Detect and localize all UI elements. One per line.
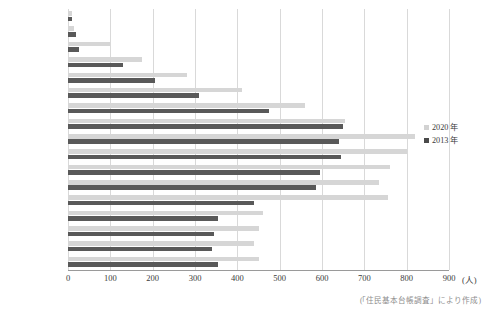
x-tick-label-900: 900 <box>443 273 456 283</box>
bar-2020年-70～74歳 <box>68 42 110 47</box>
bar-2020年-15～19歳 <box>68 211 263 216</box>
chart-row: 45～49 歳 <box>68 116 449 131</box>
chart-row: 50～54 歳 <box>68 101 449 116</box>
bar-2020年-35～39歳 <box>68 149 407 154</box>
bar-2013年-30～34歳 <box>68 170 320 175</box>
bar-2013年-55～59歳 <box>68 93 199 98</box>
x-tick-label-400: 400 <box>231 273 244 283</box>
bar-2020年-5～9歳 <box>68 241 254 246</box>
chart-legend: 2020 年2013 年 <box>424 121 458 147</box>
x-tick-label-300: 300 <box>189 273 202 283</box>
chart-row: 80 歳以上 <box>68 9 449 24</box>
legend-label: 2020 年 <box>432 121 458 134</box>
source-note: (「住民基本台帳調査」により作成) <box>360 294 481 305</box>
bar-2013年-40～44歳 <box>68 139 339 144</box>
chart-row: 60～64 歳 <box>68 70 449 85</box>
chart-row: 5 ～ 9 歳 <box>68 239 449 254</box>
chart-row: 35～39 歳 <box>68 147 449 162</box>
bar-2020年-10～14歳 <box>68 226 259 231</box>
chart-row: 65～69 歳 <box>68 55 449 70</box>
plot-area: 80 歳以上75～79 歳70～74 歳65～69 歳60～64 歳55～59 … <box>68 9 449 270</box>
legend-swatch-icon <box>424 125 429 130</box>
bar-2020年-20～24歳 <box>68 195 388 200</box>
chart-row: 30～34 歳 <box>68 163 449 178</box>
bar-2020年-75～79歳 <box>68 26 74 31</box>
bar-2013年-5～9歳 <box>68 247 212 252</box>
x-tick-label-200: 200 <box>146 273 159 283</box>
bar-2013年-70～74歳 <box>68 47 79 52</box>
bar-2013年-65～69歳 <box>68 63 123 68</box>
x-tick-label-600: 600 <box>316 273 329 283</box>
chart-row: 40～44 歳 <box>68 132 449 147</box>
x-tick-label-500: 500 <box>273 273 286 283</box>
bar-2013年-10～14歳 <box>68 232 214 237</box>
bar-2020年-30～34歳 <box>68 165 390 170</box>
bar-2013年-15～19歳 <box>68 216 218 221</box>
bar-2013年-50～54歳 <box>68 109 269 114</box>
bar-2020年-55～59歳 <box>68 88 242 93</box>
population-pyramid-bar-chart: 80 歳以上75～79 歳70～74 歳65～69 歳60～64 歳55～59 … <box>0 0 489 312</box>
bar-2013年-35～39歳 <box>68 155 341 160</box>
chart-row: 0 ～ 4 歳 <box>68 255 449 270</box>
chart-row: 10～14 歳 <box>68 224 449 239</box>
bar-2020年-25～29歳 <box>68 180 379 185</box>
bar-2013年-25～29歳 <box>68 185 316 190</box>
legend-label: 2013 年 <box>432 134 458 147</box>
bar-2020年-65～69歳 <box>68 57 142 62</box>
bar-2020年-0～4歳 <box>68 257 259 262</box>
x-tick-label-0: 0 <box>66 273 70 283</box>
bar-2013年-80歳以上 <box>68 17 72 22</box>
legend-swatch-icon <box>424 138 429 143</box>
bar-2020年-45～49歳 <box>68 119 345 124</box>
x-tick-label-800: 800 <box>400 273 413 283</box>
bar-2020年-80歳以上 <box>68 11 72 16</box>
legend-item: 2020 年 <box>424 121 458 134</box>
chart-row: 75～79 歳 <box>68 24 449 39</box>
x-axis-line <box>68 270 449 271</box>
x-axis-unit-label: (人) <box>462 273 477 285</box>
chart-row: 70～74 歳 <box>68 40 449 55</box>
chart-row: 55～59 歳 <box>68 86 449 101</box>
bar-2013年-75～79歳 <box>68 32 76 37</box>
x-tick-label-700: 700 <box>358 273 371 283</box>
x-tick-label-100: 100 <box>104 273 117 283</box>
bar-2013年-20～24歳 <box>68 201 254 206</box>
bar-2020年-60～64歳 <box>68 73 187 78</box>
chart-row: 15～19 歳 <box>68 209 449 224</box>
bar-2013年-0～4歳 <box>68 262 218 267</box>
chart-row: 25～29 歳 <box>68 178 449 193</box>
chart-row: 20～24 歳 <box>68 193 449 208</box>
bar-2020年-50～54歳 <box>68 103 305 108</box>
bar-2020年-40～44歳 <box>68 134 415 139</box>
legend-item: 2013 年 <box>424 134 458 147</box>
bar-2013年-45～49歳 <box>68 124 343 129</box>
bar-2013年-60～64歳 <box>68 78 155 83</box>
